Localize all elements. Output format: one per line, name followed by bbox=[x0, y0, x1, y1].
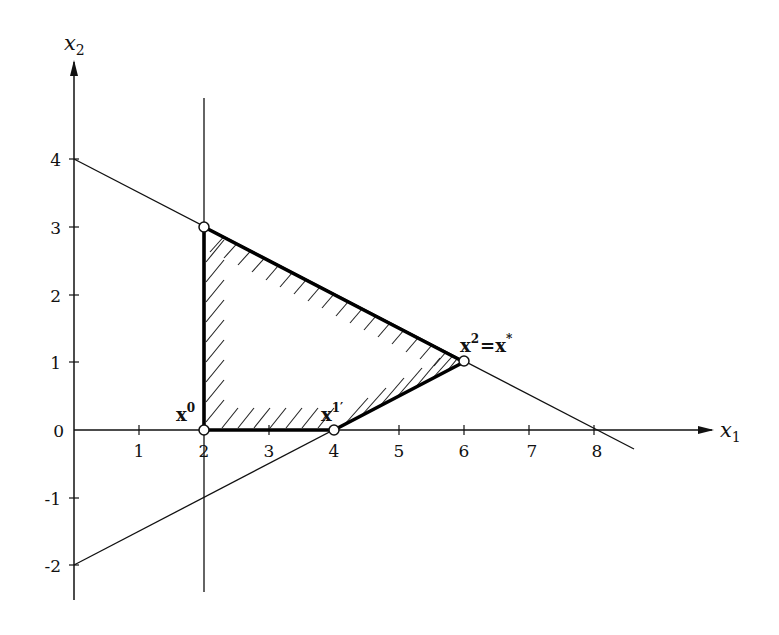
vertex-x1 bbox=[329, 425, 339, 435]
x1-axis-label: x1 bbox=[720, 418, 741, 445]
x-tick-8: 8 bbox=[592, 441, 603, 461]
vertex-x0 bbox=[199, 425, 209, 435]
x-tick-1: 1 bbox=[134, 441, 145, 461]
y-tick-neg1: -1 bbox=[44, 489, 61, 509]
y-tick-2: 2 bbox=[50, 286, 61, 306]
x-tick-6: 6 bbox=[459, 441, 470, 461]
x-tick-4: 4 bbox=[329, 441, 340, 461]
y-tick-neg2: -2 bbox=[44, 556, 61, 576]
constraint-lines bbox=[74, 98, 634, 592]
label-x2-optimal: x2=x* bbox=[460, 332, 513, 356]
feasible-region-hatching bbox=[206, 232, 466, 428]
label-x1: x1′ bbox=[321, 401, 343, 425]
feasible-region-boundary bbox=[204, 227, 464, 430]
x-tick-3: 3 bbox=[264, 441, 275, 461]
x-tick-5: 5 bbox=[394, 441, 405, 461]
x-tick-7: 7 bbox=[527, 441, 538, 461]
y-tick-1: 1 bbox=[50, 353, 61, 373]
lp-diagram: 1 2 3 4 5 6 7 8 4 3 2 1 0 -1 -2 x2 x1 bbox=[0, 0, 779, 635]
vertex-2-3 bbox=[199, 222, 209, 232]
y-tick-0: 0 bbox=[53, 421, 64, 441]
vertex-x2-optimal bbox=[459, 356, 469, 366]
y-tick-4: 4 bbox=[50, 150, 61, 170]
label-x0: x0 bbox=[176, 401, 195, 425]
x2-axis-label: x2 bbox=[64, 31, 85, 58]
y-tick-3: 3 bbox=[50, 218, 61, 238]
axes: 1 2 3 4 5 6 7 8 4 3 2 1 0 -1 -2 x2 x1 bbox=[44, 31, 740, 600]
y-tick-labels: 4 3 2 1 0 -1 -2 bbox=[44, 150, 64, 576]
